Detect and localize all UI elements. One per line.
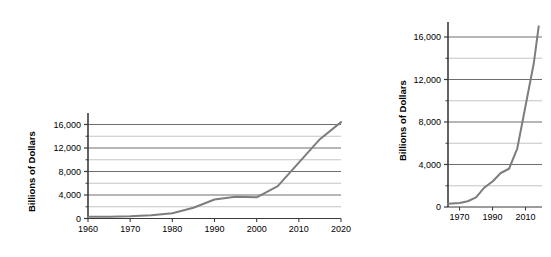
y-tick-label: 8,000 bbox=[418, 117, 441, 127]
y-tick-label: 4,000 bbox=[418, 160, 441, 170]
x-tick-label: 1980 bbox=[162, 224, 182, 234]
x-tick-label: 2020 bbox=[331, 224, 351, 234]
y-tick-label: 12,000 bbox=[53, 143, 81, 153]
y-tick-label: 8,000 bbox=[58, 167, 81, 177]
x-tick-label: 2000 bbox=[247, 224, 267, 234]
chart-panel-left: Billions of Dollars 04,0008,00012,00016,… bbox=[0, 0, 360, 257]
x-tick-label: 1960 bbox=[78, 224, 98, 234]
x-tick-label: 2010 bbox=[289, 224, 309, 234]
x-tick-label: 1990 bbox=[204, 224, 224, 234]
y-tick-label: 16,000 bbox=[53, 120, 81, 130]
y-tick-label: 4,000 bbox=[58, 190, 81, 200]
y-tick-label: 12,000 bbox=[413, 75, 441, 85]
data-line-right bbox=[448, 26, 539, 203]
y-tick-label: 16,000 bbox=[413, 32, 441, 42]
y-tick-label: 0 bbox=[436, 202, 441, 212]
x-tick-label: 1970 bbox=[120, 224, 140, 234]
y-tick-label: 0 bbox=[76, 214, 81, 224]
x-tick-label: 1990 bbox=[483, 212, 503, 222]
two-panel-line-chart-figure: Billions of Dollars 04,0008,00012,00016,… bbox=[0, 0, 551, 257]
x-tick-label: 2010 bbox=[515, 212, 535, 222]
x-tick-label: 1970 bbox=[450, 212, 470, 222]
chart-panel-right: Billions of Dollars 04,0008,00012,00016,… bbox=[370, 0, 551, 257]
